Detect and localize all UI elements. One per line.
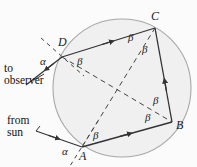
ray-to-observer-arrow: [46, 63, 54, 69]
ray-from-sun-arrow: [48, 135, 58, 138]
geometry-canvas: [0, 0, 197, 167]
figure-container: D C B A α β β β β β β α to observer from…: [0, 0, 197, 167]
leader-from-sun: [36, 126, 40, 131]
